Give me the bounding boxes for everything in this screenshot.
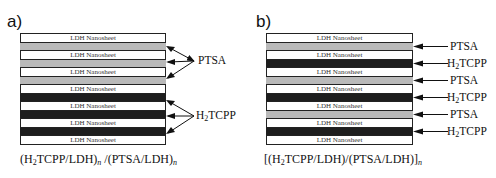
h2tcpp-label: H2TCPP xyxy=(447,91,487,105)
panel-b-formula: [(H2TCPP/LDH)/(PTSA/LDH)]n xyxy=(264,152,422,167)
ptsa-label: PTSA xyxy=(450,40,478,52)
ptsa-label: PTSA xyxy=(450,108,478,120)
ptsa-label: PTSA xyxy=(450,74,478,86)
h2tcpp-label: H2TCPP xyxy=(447,125,487,139)
h2tcpp-label: H2TCPP xyxy=(447,57,487,71)
